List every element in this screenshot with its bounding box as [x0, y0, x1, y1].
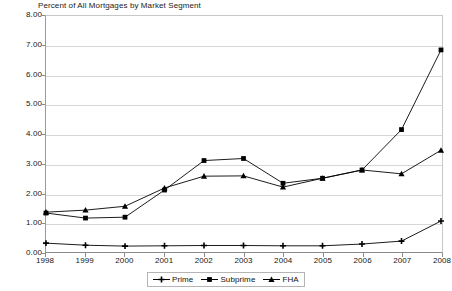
data-point-marker — [399, 238, 405, 244]
y-axis-tick-label: 1.00 — [2, 219, 42, 227]
data-point-marker — [438, 147, 444, 153]
data-point-marker — [83, 242, 89, 248]
data-point-marker — [159, 277, 165, 283]
x-axis-tick-label: 2008 — [433, 256, 451, 266]
plot-area — [45, 15, 443, 253]
data-point-marker — [202, 158, 207, 163]
legend-label: FHA — [282, 275, 298, 284]
data-point-marker — [207, 277, 212, 282]
x-axis-tick-label: 2002 — [195, 256, 213, 266]
series-line — [46, 50, 441, 218]
data-point-marker — [438, 218, 444, 224]
data-point-marker — [399, 127, 404, 132]
data-point-marker — [162, 243, 168, 249]
data-point-marker — [83, 216, 88, 221]
data-point-marker — [122, 203, 128, 209]
x-axis-tick-label: 2006 — [353, 256, 371, 266]
series-prime — [43, 218, 444, 249]
x-axis-tick-label: 2005 — [314, 256, 332, 266]
data-point-marker — [123, 215, 128, 220]
legend-label: Prime — [172, 275, 193, 284]
y-axis-tick-label: 4.00 — [2, 130, 42, 138]
data-point-marker — [241, 243, 247, 249]
x-axis: 1998199920002001200220032004200520062007… — [45, 256, 443, 270]
y-axis-tick-label: 6.00 — [2, 71, 42, 79]
data-point-marker — [269, 276, 275, 282]
legend-marker-plus-icon — [153, 275, 170, 284]
y-axis-tick-label: 8.00 — [2, 11, 42, 19]
y-axis: 0.001.002.003.004.005.006.007.008.00 — [0, 15, 42, 253]
x-axis-tick-label: 2007 — [393, 256, 411, 266]
data-point-marker — [122, 243, 128, 249]
y-axis-tick-label: 3.00 — [2, 160, 42, 168]
legend-entry-prime[interactable]: Prime — [153, 275, 193, 284]
x-axis-tick-label: 1998 — [36, 256, 54, 266]
legend-marker-triangle-icon — [263, 275, 280, 284]
chart-legend: PrimeSubprimeFHA — [147, 272, 305, 287]
data-point-marker — [320, 243, 326, 249]
y-axis-tick-label: 7.00 — [2, 41, 42, 49]
legend-entry-fha[interactable]: FHA — [263, 275, 298, 284]
x-axis-tick-label: 1999 — [76, 256, 94, 266]
data-point-marker — [241, 156, 246, 161]
series-layer — [46, 16, 442, 252]
x-axis-tick-label: 2001 — [155, 256, 173, 266]
data-point-marker — [201, 243, 207, 249]
legend-label: Subprime — [220, 275, 255, 284]
chart-title: Percent of All Mortgages by Market Segme… — [38, 1, 201, 11]
x-axis-tick-label: 2000 — [115, 256, 133, 266]
data-point-marker — [280, 243, 286, 249]
data-point-marker — [359, 241, 365, 247]
y-axis-tick-label: 2.00 — [2, 190, 42, 198]
legend-marker-square-icon — [201, 275, 218, 284]
series-subprime — [44, 48, 444, 221]
y-axis-tick-label: 5.00 — [2, 100, 42, 108]
legend-entry-subprime[interactable]: Subprime — [201, 275, 255, 284]
series-line — [46, 221, 441, 246]
x-axis-tick-label: 2004 — [274, 256, 292, 266]
chart-container: Percent of All Mortgages by Market Segme… — [0, 0, 452, 291]
data-point-marker — [439, 48, 444, 53]
data-point-marker — [43, 240, 49, 246]
x-axis-tick-label: 2003 — [234, 256, 252, 266]
